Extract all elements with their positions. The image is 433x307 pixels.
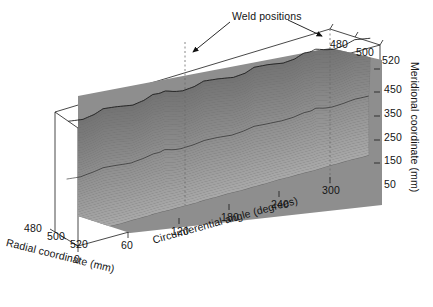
x-tick-60: 60	[121, 239, 133, 251]
weld-annotation-arrows	[193, 20, 322, 52]
z-tick-150: 150	[384, 154, 402, 166]
z-tick-450: 450	[384, 83, 402, 95]
depth-tick-480: 480	[330, 38, 348, 50]
depth-tick-500: 500	[356, 46, 374, 58]
x-tick-300: 300	[322, 184, 340, 196]
z-tick-350: 350	[384, 107, 402, 119]
y-tick-500: 500	[47, 230, 65, 242]
depth-tick-520: 520	[382, 54, 400, 66]
y-tick-480: 480	[24, 222, 42, 234]
z-tick-50: 50	[384, 178, 396, 190]
y-tick-520: 520	[70, 238, 88, 250]
surface-plot-figure: Weld positions 0 60 120 180 240 300 Circ…	[0, 0, 433, 307]
weld-positions-label: Weld positions	[232, 10, 302, 22]
z-tick-250: 250	[384, 131, 402, 143]
z-axis-label: Meridional coordinate (mm)	[409, 62, 421, 192]
